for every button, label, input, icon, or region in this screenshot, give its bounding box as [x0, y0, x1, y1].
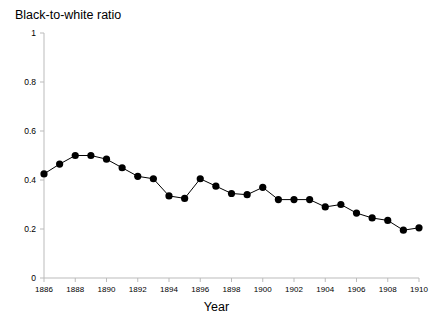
x-axis-tick-label: 1904: [316, 285, 334, 294]
data-point: [228, 190, 235, 197]
data-point: [197, 175, 204, 182]
data-point: [384, 217, 391, 224]
x-axis-tick-label: 1888: [66, 285, 84, 294]
data-point: [87, 152, 94, 159]
data-point: [119, 164, 126, 171]
x-axis-tick-label: 1886: [35, 285, 53, 294]
x-axis-tick-label: 1890: [98, 285, 116, 294]
x-axis-tick-label: 1896: [191, 285, 209, 294]
data-point: [290, 196, 297, 203]
x-axis-title: Year: [0, 300, 433, 314]
data-point: [72, 152, 79, 159]
chart-container: Black-to-white ratio 00.20.40.60.8118861…: [0, 0, 433, 327]
data-point: [353, 209, 360, 216]
x-axis-tick-label: 1898: [223, 285, 241, 294]
data-point: [150, 175, 157, 182]
y-axis-tick-label: 0.4: [24, 175, 36, 185]
data-point: [337, 201, 344, 208]
data-point: [40, 170, 47, 177]
data-point: [56, 160, 63, 167]
y-axis-tick-label: 0.6: [24, 126, 36, 136]
data-point: [103, 156, 110, 163]
data-point: [134, 173, 141, 180]
data-point: [165, 192, 172, 199]
data-point: [181, 195, 188, 202]
x-axis-tick-label: 1894: [160, 285, 178, 294]
data-point: [244, 191, 251, 198]
x-axis-tick-label: 1906: [348, 285, 366, 294]
y-axis-tick-label: 1: [31, 28, 36, 38]
data-point: [259, 184, 266, 191]
data-point: [212, 183, 219, 190]
data-point: [415, 224, 422, 231]
x-axis-tick-label: 1892: [129, 285, 147, 294]
data-point: [322, 203, 329, 210]
x-axis-tick-label: 1908: [379, 285, 397, 294]
data-point: [369, 214, 376, 221]
y-axis-tick-label: 0.2: [24, 224, 36, 234]
chart-plot-area: 00.20.40.60.8118861888189018921894189618…: [0, 0, 433, 327]
x-axis-tick-label: 1902: [285, 285, 303, 294]
data-point: [275, 196, 282, 203]
x-axis-tick-label: 1910: [410, 285, 428, 294]
x-axis-tick-label: 1900: [254, 285, 272, 294]
data-point: [400, 227, 407, 234]
y-axis-tick-label: 0: [31, 273, 36, 283]
y-axis-tick-label: 0.8: [24, 77, 36, 87]
data-point: [306, 196, 313, 203]
